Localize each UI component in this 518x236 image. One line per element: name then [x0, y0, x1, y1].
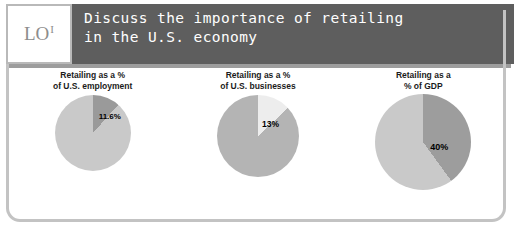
chart-title: Retailing as a % of U.S. employment: [53, 70, 132, 91]
pie-wrap: 11.6%: [55, 95, 131, 171]
pie-slice-label: 13%: [262, 119, 279, 129]
pie-graphic: [55, 95, 131, 171]
pie-chart-employment: Retailing as a % of U.S. employment 11.6…: [18, 70, 168, 171]
pie-chart-gdp: Retailing as a % of GDP 40%: [348, 70, 498, 190]
learning-objective-badge: LOI: [6, 4, 72, 64]
badge-superscript-text: I: [50, 23, 54, 35]
pie-slice-label: 40%: [430, 142, 448, 152]
chart-title: Retailing as a % of U.S. businesses: [220, 70, 296, 91]
pie-wrap: 40%: [375, 94, 471, 190]
slide-title: Discuss the importance of retailing in t…: [84, 9, 504, 47]
badge-main-text: LO: [24, 24, 49, 45]
charts-row: Retailing as a % of U.S. employment 11.6…: [10, 70, 506, 220]
header-divider: [6, 64, 511, 68]
pie-graphic: [375, 94, 471, 190]
learning-objective-slide: LOI Discuss the importance of retailing …: [0, 0, 518, 236]
pie-wrap: 13%: [217, 95, 299, 177]
pie-chart-businesses: Retailing as a % of U.S. businesses 13%: [183, 70, 333, 177]
chart-title: Retailing as a % of GDP: [396, 70, 451, 91]
badge-text: LOI: [24, 24, 54, 43]
pie-graphic: [217, 95, 299, 177]
pie-slice-label: 11.6%: [99, 112, 121, 121]
